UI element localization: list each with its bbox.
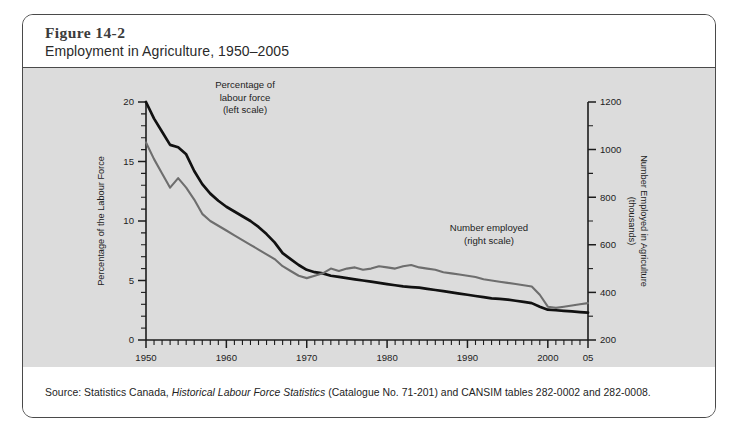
svg-text:(right scale): (right scale) [464,235,514,246]
series-line-percentage [146,102,588,313]
figure-subtitle: Employment in Agriculture, 1950–2005 [45,42,715,61]
x-axis-tick-label: 1960 [216,352,237,363]
figure-title-block: Figure 14-2 Employment in Agriculture, 1… [23,15,715,67]
y-axis-tick-label: 5 [129,275,134,286]
percentage-annotation: Percentage oflabour force(left scale) [215,79,275,115]
svg-text:Number Employed in Agriculture: Number Employed in Agriculture [639,155,649,287]
y2-axis-tick-label: 400 [600,287,616,298]
figure-number: Figure 14-2 [45,23,715,42]
y2-axis-tick-label: 600 [600,239,616,250]
source-prefix: Source: Statistics Canada, [45,387,172,398]
x-axis-tick-label: 1980 [376,352,397,363]
x-axis-tick-label: 05 [583,352,594,363]
source-note: Source: Statistics Canada, Historical La… [45,387,651,398]
source-suffix: (Catalogue No. 71-201) and CANSIM tables… [325,387,651,398]
x-axis-tick-label: 2000 [537,352,558,363]
y2-axis-tick-label: 200 [600,334,616,345]
chart-svg: 0510152020040060080010001200195019601970… [23,68,716,368]
y2-axis-tick-label: 1200 [600,96,621,107]
y2-axis-title: Number Employed in Agriculture(thousands… [627,155,649,287]
svg-text:labour force: labour force [220,92,271,103]
svg-text:(thousands): (thousands) [627,197,637,246]
svg-text:Percentage of: Percentage of [215,79,275,90]
y2-axis-tick-label: 800 [600,192,616,203]
source-block: Source: Statistics Canada, Historical La… [23,367,715,417]
y-axis-title: Percentage of the Labour Force [96,156,106,286]
y-axis-tick-label: 15 [123,156,134,167]
figure-frame: Figure 14-2 Employment in Agriculture, 1… [22,14,716,418]
y-axis-tick-label: 20 [123,96,134,107]
y-axis-tick-label: 0 [129,334,134,345]
svg-text:Number employed: Number employed [450,222,528,233]
y2-axis-tick-label: 1000 [600,144,621,155]
source-italic-title: Historical Labour Force Statistics [172,387,326,398]
plot-band: 0510152020040060080010001200195019601970… [23,67,715,369]
y-axis-tick-label: 10 [123,215,134,226]
x-axis-tick-label: 1950 [135,352,156,363]
number-annotation: Number employed(right scale) [450,222,528,246]
svg-text:(left scale): (left scale) [223,104,267,115]
x-axis-tick-label: 1990 [457,352,478,363]
x-axis-tick-label: 1970 [296,352,317,363]
